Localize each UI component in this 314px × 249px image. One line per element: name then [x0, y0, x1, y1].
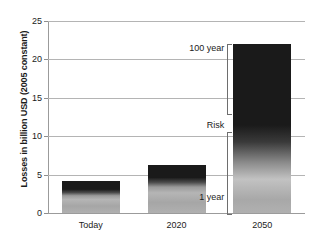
- y-axis-tick: [44, 98, 48, 99]
- annotation-label: 100 year: [189, 43, 224, 53]
- x-axis-tick-label: Today: [79, 220, 103, 230]
- x-axis-tick-label: 2020: [166, 220, 186, 230]
- bar[interactable]: [233, 44, 291, 213]
- annotation-label: Risk: [207, 120, 225, 130]
- plot-area: 0510152025: [48, 21, 305, 213]
- y-axis-tick: [44, 21, 48, 22]
- y-axis-tick: [44, 175, 48, 176]
- bar-fill: [233, 44, 291, 213]
- annotation-label: 1 year: [199, 192, 224, 202]
- x-axis-tick-label: 2050: [252, 220, 272, 230]
- y-axis-title: Losses in billion USD (2005 constant): [19, 9, 29, 209]
- annotation-bracket: [227, 44, 232, 115]
- y-axis-tick-label: 5: [37, 170, 42, 180]
- bar[interactable]: [148, 165, 206, 213]
- x-axis-line: [48, 213, 305, 214]
- y-axis-tick-label: 20: [32, 54, 42, 64]
- gridline: [48, 21, 305, 22]
- bar[interactable]: [62, 181, 120, 213]
- bar-fill: [62, 181, 120, 213]
- annotation-bracket: [227, 132, 232, 215]
- chart-container: Losses in billion USD (2005 constant) 05…: [0, 0, 314, 249]
- y-axis-tick-label: 25: [32, 16, 42, 26]
- y-axis-tick: [44, 59, 48, 60]
- y-axis-tick: [44, 213, 48, 214]
- bar-fill: [148, 165, 206, 213]
- y-axis-tick-label: 10: [32, 131, 42, 141]
- y-axis-tick-label: 15: [32, 93, 42, 103]
- y-axis-tick-label: 0: [37, 208, 42, 218]
- y-axis-tick: [44, 136, 48, 137]
